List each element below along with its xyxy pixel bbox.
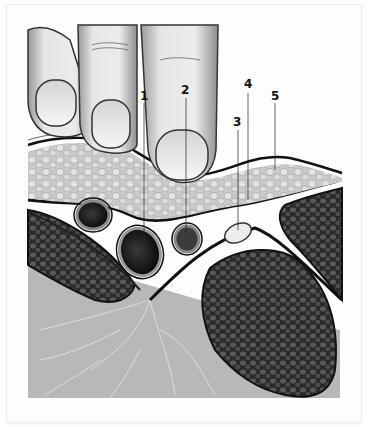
label-3: 3 — [233, 116, 241, 128]
label-2: 2 — [181, 84, 189, 96]
anatomy-illustration — [0, 0, 370, 427]
label-1: 1 — [140, 90, 148, 102]
label-4: 4 — [244, 78, 252, 90]
label-5: 5 — [271, 90, 279, 102]
